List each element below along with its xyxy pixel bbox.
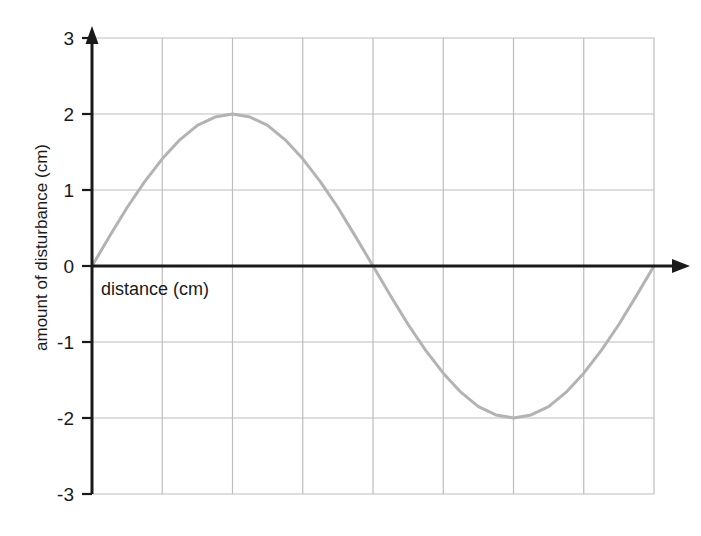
y-axis-arrow-icon: [86, 26, 99, 44]
wave-graph-figure: 3 2 1 0 -1 -2 -3 amount of disturbance (…: [0, 0, 701, 536]
y-tick-label-neg3: -3: [38, 485, 74, 504]
plot-canvas: [0, 0, 701, 536]
y-tick-label-3: 3: [44, 29, 74, 48]
y-tick-label-neg2: -2: [38, 409, 74, 428]
x-axis-title: distance (cm): [101, 280, 209, 298]
x-axis-arrow-icon: [672, 259, 690, 273]
y-axis-title: amount of disturbance (cm): [33, 98, 50, 398]
